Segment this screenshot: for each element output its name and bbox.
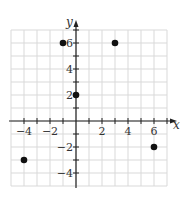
x-tick-label: −2	[42, 125, 58, 138]
axis-ticks	[24, 30, 167, 173]
x-axis-label: x	[173, 118, 180, 132]
data-point	[60, 40, 67, 47]
grid	[11, 30, 167, 186]
x-tick-label: 4	[125, 125, 132, 138]
x-tick-label: −4	[16, 125, 32, 138]
data-point	[73, 92, 80, 99]
x-tick-label: 6	[151, 125, 158, 138]
y-tick-label: 6	[66, 37, 73, 50]
data-point	[21, 157, 28, 164]
axes	[9, 20, 177, 188]
y-tick-label: 4	[66, 63, 73, 76]
data-point	[151, 144, 158, 151]
y-tick-label: −2	[57, 141, 73, 154]
scatter-plot: −4−2246−4−2246 x y	[0, 0, 188, 199]
y-tick-label: 2	[66, 89, 73, 102]
data-point	[112, 40, 119, 47]
x-tick-label: 2	[99, 125, 106, 138]
y-axis-arrow-icon	[74, 20, 79, 27]
y-axis-label: y	[65, 15, 73, 29]
y-tick-label: −4	[57, 167, 73, 180]
